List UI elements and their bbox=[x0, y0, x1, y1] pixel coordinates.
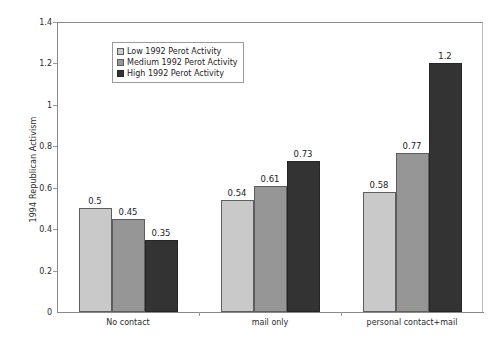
bar bbox=[429, 63, 462, 312]
y-axis-tick-label: 1.2 bbox=[0, 59, 52, 68]
y-axis-tick-label: 1 bbox=[0, 100, 52, 109]
legend-label: Low 1992 Perot Activity bbox=[127, 47, 221, 56]
y-axis-tick-label: 0.4 bbox=[0, 225, 52, 234]
bar bbox=[363, 192, 396, 312]
x-axis-category-separator bbox=[199, 312, 200, 316]
legend: Low 1992 Perot ActivityMedium 1992 Perot… bbox=[112, 42, 244, 83]
bar-value-label: 0.73 bbox=[294, 149, 313, 159]
bar-value-label: 1.2 bbox=[438, 51, 452, 61]
x-axis-category-label: mail only bbox=[252, 318, 289, 327]
y-axis-tick-label: 0.8 bbox=[0, 142, 52, 151]
x-axis-category-label: No contact bbox=[106, 318, 149, 327]
bar bbox=[145, 240, 178, 313]
bar bbox=[254, 186, 287, 312]
legend-item: High 1992 Perot Activity bbox=[117, 68, 238, 79]
bar-value-label: 0.54 bbox=[228, 188, 247, 198]
bar bbox=[79, 208, 112, 312]
y-axis-tick-label: 0.6 bbox=[0, 183, 52, 192]
y-axis-tick-label: 0.2 bbox=[0, 266, 52, 275]
legend-label: Medium 1992 Perot Activity bbox=[127, 58, 238, 67]
x-axis-category-separator bbox=[341, 312, 342, 316]
bar-value-label: 0.61 bbox=[261, 174, 280, 184]
y-axis-tick-label: 1.4 bbox=[0, 18, 52, 27]
bar bbox=[287, 161, 320, 312]
bar-value-label: 0.77 bbox=[403, 141, 422, 151]
bar bbox=[112, 219, 145, 312]
bar-value-label: 0.45 bbox=[119, 207, 138, 217]
bar bbox=[221, 200, 254, 312]
y-axis-tick-label: 0 bbox=[0, 308, 52, 317]
x-axis-line bbox=[57, 312, 484, 313]
x-axis-category-label: personal contact+mail bbox=[367, 318, 458, 327]
bar-value-label: 0.58 bbox=[370, 180, 389, 190]
legend-item: Medium 1992 Perot Activity bbox=[117, 57, 238, 68]
bar bbox=[396, 153, 429, 313]
bar-value-label: 0.35 bbox=[152, 228, 171, 238]
legend-swatch bbox=[117, 48, 124, 55]
legend-swatch bbox=[117, 70, 124, 77]
bar-chart: 1994 Republican Activism 1.41.210.80.60.… bbox=[0, 0, 502, 345]
legend-swatch bbox=[117, 59, 124, 66]
legend-label: High 1992 Perot Activity bbox=[127, 69, 224, 78]
legend-item: Low 1992 Perot Activity bbox=[117, 46, 238, 57]
bar-value-label: 0.5 bbox=[88, 196, 102, 206]
